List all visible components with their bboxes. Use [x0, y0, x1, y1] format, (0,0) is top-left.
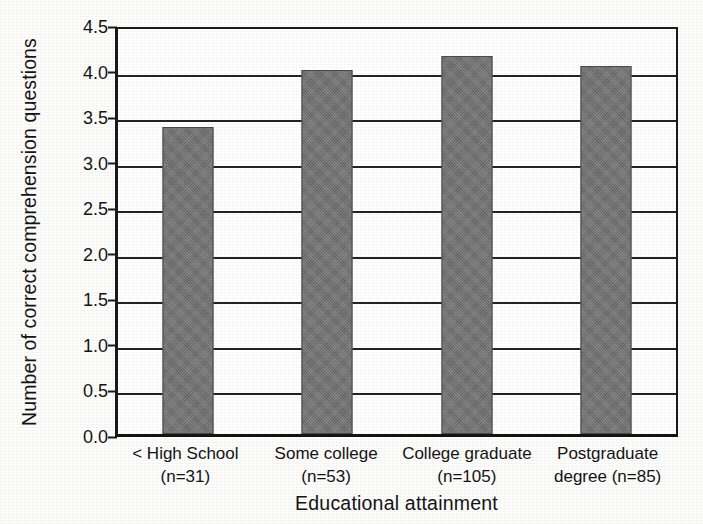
- x-axis-tick-label-line2: (n=31): [115, 466, 256, 489]
- y-axis-tick-label: 3.0: [83, 153, 108, 174]
- bar: [441, 56, 492, 434]
- y-axis-tick-label: 1.0: [83, 335, 108, 356]
- bar-slot: [537, 29, 677, 434]
- x-axis-tick-label: Postgraduatedegree (n=85): [537, 443, 678, 488]
- x-axis-tick-label-line1: Postgraduate: [557, 444, 658, 463]
- x-axis-tick-label: < High School(n=31): [115, 443, 256, 488]
- y-axis-tick-label: 2.5: [83, 199, 108, 220]
- bar: [162, 127, 213, 434]
- x-axis-tick-label: Some college(n=53): [256, 443, 397, 488]
- x-axis-tick-label-line2: (n=105): [397, 466, 538, 489]
- y-axis-tick-label: 0.5: [83, 381, 108, 402]
- y-axis-tick-label: 3.5: [83, 108, 108, 129]
- y-axis-tick-label: 2.0: [83, 244, 108, 265]
- y-axis-tick-label: 4.5: [83, 17, 108, 38]
- bar: [581, 66, 632, 434]
- y-axis-tick-label: 1.5: [83, 290, 108, 311]
- bar-slot: [397, 29, 537, 434]
- y-axis-tick-label: 0.0: [83, 427, 108, 448]
- x-axis-tick-label-line2: (n=53): [256, 466, 397, 489]
- bar-chart-figure: Number of correct comprehension question…: [0, 0, 703, 524]
- x-axis-title: Educational attainment: [115, 492, 678, 515]
- x-axis-tick-label-line1: College graduate: [402, 444, 531, 463]
- x-axis-tick-label-line1: < High School: [132, 444, 238, 463]
- y-axis-tick-labels: 0.00.51.01.52.02.53.03.54.04.5: [46, 27, 108, 437]
- bar-series: [118, 29, 676, 434]
- x-axis-tick-label: College graduate(n=105): [397, 443, 538, 488]
- bar-slot: [258, 29, 398, 434]
- x-axis-tick-labels: < High School(n=31)Some college(n=53)Col…: [115, 443, 678, 488]
- y-axis-tick-label: 4.0: [83, 62, 108, 83]
- plot-area: [115, 27, 678, 437]
- x-axis-tick-label-line1: Some college: [275, 444, 378, 463]
- bar: [302, 70, 353, 434]
- x-axis-tick-label-line2: degree (n=85): [537, 466, 678, 489]
- bar-slot: [118, 29, 258, 434]
